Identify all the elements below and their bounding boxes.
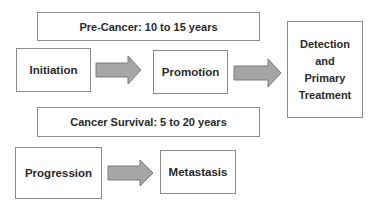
progression-label: Progression: [25, 167, 92, 179]
progression-box: Progression: [15, 147, 102, 199]
metastasis-label: Metastasis: [169, 166, 228, 178]
pre-cancer-label: Pre-Cancer: 10 to 15 years: [79, 21, 217, 33]
survival-banner: Cancer Survival: 5 to 20 years: [37, 107, 260, 137]
detection-line-4: Treatment: [299, 87, 352, 104]
detection-line-1: Detection: [300, 36, 350, 53]
detection-line-3: Primary: [305, 70, 346, 87]
pre-cancer-banner: Pre-Cancer: 10 to 15 years: [37, 12, 260, 41]
promotion-box: Promotion: [153, 50, 228, 94]
promotion-label: Promotion: [162, 66, 220, 78]
arrow-right-icon: [233, 58, 283, 88]
detection-line-2: and: [315, 53, 335, 70]
metastasis-box: Metastasis: [160, 150, 236, 194]
detection-treatment-box: Detection and Primary Treatment: [287, 21, 363, 118]
arrow-right-icon: [95, 55, 143, 85]
initiation-label: Initiation: [30, 64, 78, 76]
arrow-right-icon: [107, 159, 155, 187]
survival-label: Cancer Survival: 5 to 20 years: [70, 116, 227, 128]
initiation-box: Initiation: [16, 48, 91, 92]
